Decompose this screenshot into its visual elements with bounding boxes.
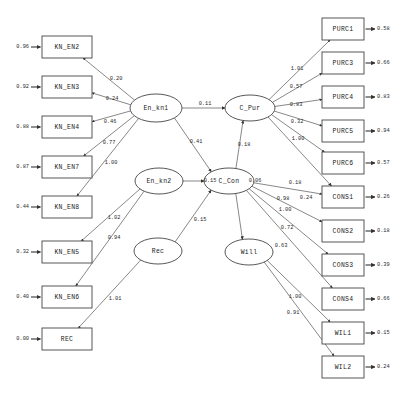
observed-variable-label: KN_EN2 (54, 44, 79, 51)
sem-path-diagram: KN_EN2KN_EN3KN_EN4KN_EN7KN_EN8KN_EN5KN_E… (0, 0, 406, 395)
residual-value: 0.58 (377, 26, 390, 32)
residual-value: 0.96 (16, 44, 29, 50)
observed-variable-label: KN_EN7 (54, 164, 79, 171)
observed-variable-label: CONS3 (333, 262, 354, 269)
structural-path-arrow (175, 190, 211, 242)
loading-coefficient: 0.32 (291, 119, 304, 125)
observed-variable-label: KN_EN4 (54, 124, 79, 131)
latent-variable-label: En_kn2 (146, 178, 171, 185)
residual-value: 0.26 (377, 194, 390, 200)
observed-variable-label: CONS1 (333, 194, 354, 201)
loading-coefficient: 1.00 (292, 136, 305, 142)
residual-value: 0.57 (377, 160, 390, 166)
observed-variable-label: PURC5 (333, 128, 354, 135)
loading-coefficient: 0.77 (103, 140, 116, 146)
nodes-layer: KN_EN2KN_EN3KN_EN4KN_EN7KN_EN8KN_EN5KN_E… (42, 18, 364, 378)
residual-value: 0.24 (377, 364, 390, 370)
observed-variable-label: PURC3 (333, 60, 354, 67)
residual-value: 0.15 (377, 330, 390, 336)
residual-value: 0.40 (16, 294, 29, 300)
observed-variable-label: WIL2 (335, 364, 352, 371)
observed-variable-label: PURC6 (333, 160, 354, 167)
loading-coefficient: 0.91 (287, 310, 300, 316)
loading-coefficient: 1.01 (109, 296, 122, 302)
residual-value: 0.00 (16, 336, 29, 342)
latent-variable-label: Rec (152, 248, 165, 255)
observed-variable-label: KN_EN8 (54, 204, 79, 211)
residual-value: 0.32 (16, 249, 29, 255)
loading-coefficient: 1.00 (105, 160, 118, 166)
path-coefficient: 0.63 (275, 243, 288, 249)
observed-variable-label: CONS2 (333, 228, 354, 235)
loading-coefficient: 0.83 (290, 102, 303, 108)
loading-coefficient: 0.20 (110, 76, 123, 82)
path-coefficient: 0.24 (300, 195, 313, 201)
residual-value: 0.87 (16, 164, 29, 170)
residual-value: 0.39 (377, 262, 390, 268)
residual-value: 0.44 (16, 204, 29, 210)
observed-variable-label: KN_EN5 (54, 249, 79, 256)
observed-variable-label: PURC4 (333, 94, 354, 101)
loading-coefficient: 1.02 (108, 215, 121, 221)
observed-variable-label: PURC1 (333, 26, 354, 33)
residual-value: 0.83 (377, 94, 390, 100)
latent-variable-label: Will (241, 249, 258, 256)
loading-coefficient: 0.94 (108, 235, 121, 241)
residual-value: 0.66 (377, 60, 390, 66)
loading-coefficient: 1.00 (289, 294, 302, 300)
latent-variable-label: En_kn1 (143, 105, 168, 112)
observed-variable-label: KN_EN3 (54, 84, 79, 91)
loading-coefficient: 1.01 (291, 66, 304, 72)
loading-coefficient: 0.46 (104, 119, 117, 125)
structural-path-arrow (236, 194, 243, 240)
residual-value: 0.88 (16, 124, 29, 130)
residual-value: 0.66 (377, 296, 390, 302)
path-coefficient: 0.06 (249, 178, 262, 184)
path-coefficient: 0.15 (204, 178, 217, 184)
diagram-canvas: KN_EN2KN_EN3KN_EN4KN_EN7KN_EN8KN_EN5KN_E… (0, 0, 406, 395)
path-coefficient: 0.41 (190, 139, 203, 145)
latent-variable-label: C_Con (219, 178, 240, 185)
residual-value: 0.92 (16, 84, 29, 90)
loading-coefficient: 0.24 (106, 96, 119, 102)
path-coefficient: 0.15 (194, 217, 207, 223)
residual-value: 0.94 (377, 128, 390, 134)
loading-coefficient: 0.72 (281, 225, 294, 231)
residual-value: 0.18 (377, 228, 390, 234)
loading-coefficient: 0.18 (289, 180, 302, 186)
loading-coefficient: 0.57 (290, 84, 303, 90)
loading-coefficient: 0.98 (277, 196, 290, 202)
observed-variable-label: WIL1 (335, 330, 352, 337)
latent-variable-label: C_Pur (240, 105, 261, 112)
path-coefficient: 0.11 (199, 101, 212, 107)
path-coefficient: 0.18 (238, 142, 251, 148)
loading-arrow (252, 186, 322, 222)
observed-variable-label: CONS4 (333, 296, 354, 303)
observed-variable-label: REC (61, 336, 74, 343)
loading-coefficient: 1.00 (279, 207, 292, 213)
observed-variable-label: KN_EN6 (54, 294, 79, 301)
